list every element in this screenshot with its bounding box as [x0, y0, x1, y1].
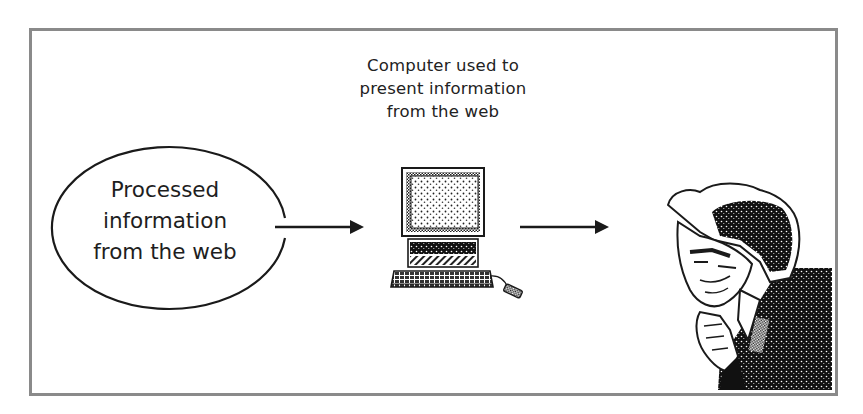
- arrow-to-viewer: [520, 220, 609, 234]
- desktop-computer-icon: [391, 168, 523, 298]
- source-node-line: from the web: [60, 236, 270, 267]
- source-node-label: Processed information from the web: [60, 174, 270, 267]
- pensive-person-illustration: [668, 184, 832, 391]
- arrow-to-computer: [275, 220, 364, 234]
- source-node-line: information: [60, 205, 270, 236]
- source-node-line: Processed: [60, 174, 270, 205]
